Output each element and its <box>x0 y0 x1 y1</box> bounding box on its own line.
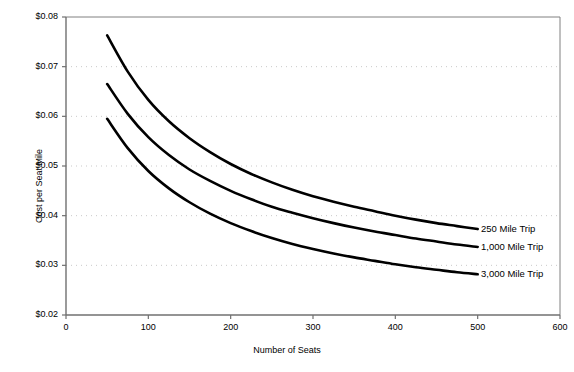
x-tick-label: 100 <box>123 322 173 332</box>
series-label-0: 250 Mile Trip <box>481 223 535 234</box>
series-label-1: 1,000 Mile Trip <box>481 241 543 252</box>
cost-per-seat-mile-chart: Cost per Seat Mile Number of Seats $0.02… <box>0 0 574 372</box>
series-label-2: 3,000 Mile Trip <box>481 268 543 279</box>
y-tick-label: $0.06 <box>14 110 58 120</box>
x-tick-label: 0 <box>41 322 91 332</box>
series-line-1 <box>107 84 478 247</box>
x-axis-title: Number of Seats <box>0 345 574 355</box>
y-tick-label: $0.04 <box>14 210 58 220</box>
y-tick-label: $0.03 <box>14 259 58 269</box>
y-tick-label: $0.02 <box>14 309 58 319</box>
y-tick-label: $0.07 <box>14 61 58 71</box>
plot-canvas <box>0 0 574 372</box>
y-tick-label: $0.05 <box>14 160 58 170</box>
y-tick-label: $0.08 <box>14 11 58 21</box>
x-tick-label: 500 <box>453 322 503 332</box>
x-tick-label: 400 <box>370 322 420 332</box>
x-tick-label: 200 <box>206 322 256 332</box>
x-tick-label: 300 <box>288 322 338 332</box>
series-line-0 <box>107 35 478 229</box>
x-tick-label: 600 <box>535 322 574 332</box>
series-line-2 <box>107 119 478 274</box>
